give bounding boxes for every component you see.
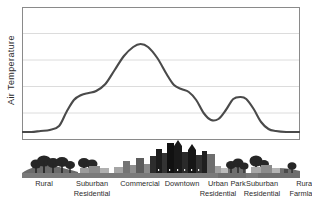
downtown-towers bbox=[150, 140, 207, 173]
x-tick-rural-farmland: Rural Farmland bbox=[279, 179, 312, 199]
plot-area bbox=[22, 7, 300, 140]
temperature-curve-svg bbox=[22, 7, 300, 140]
y-axis-label-text: Air Temperature bbox=[6, 35, 16, 105]
urban-heat-island-figure: Air Temperature bbox=[0, 0, 312, 217]
x-tick-line1: Suburban bbox=[76, 179, 108, 188]
urban-residential-buildings bbox=[207, 154, 228, 173]
skyline-svg bbox=[22, 140, 300, 178]
x-tick-line2: Residential bbox=[63, 189, 121, 199]
x-tick-line1: Suburban bbox=[246, 179, 278, 188]
y-axis-label: Air Temperature bbox=[0, 0, 22, 140]
x-tick-line2: Farmland bbox=[279, 189, 312, 199]
commercial-buildings bbox=[114, 158, 150, 173]
x-tick-line1: Rural bbox=[296, 179, 312, 188]
plot-border bbox=[23, 8, 300, 140]
x-tick-line1: Rural bbox=[35, 179, 53, 188]
city-skyline-silhouette bbox=[22, 140, 300, 178]
suburban-houses-left bbox=[78, 158, 109, 173]
suburban-houses-right bbox=[250, 156, 281, 174]
x-axis-labels: Rural Suburban Residential Commercial Do… bbox=[22, 179, 300, 217]
